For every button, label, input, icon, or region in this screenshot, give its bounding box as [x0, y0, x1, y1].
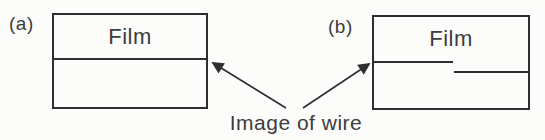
wire-image-diagram: (a) Film (b) Film Image of wire — [0, 0, 545, 140]
wire-line-segment-upper — [374, 61, 453, 63]
wire-line-segment-lower — [454, 71, 528, 73]
film-box-b: Film — [372, 15, 530, 110]
wire-line-continuous — [54, 58, 206, 60]
panel-a-label: (a) — [9, 13, 34, 35]
panel-b-label: (b) — [328, 16, 353, 38]
caption-image-of-wire: Image of wire — [226, 111, 366, 135]
film-label-b: Film — [374, 26, 528, 52]
film-box-a: Film — [52, 13, 208, 109]
arrow-to-panel-b — [303, 64, 369, 108]
arrow-to-panel-a — [213, 63, 286, 108]
film-label-a: Film — [54, 24, 206, 50]
